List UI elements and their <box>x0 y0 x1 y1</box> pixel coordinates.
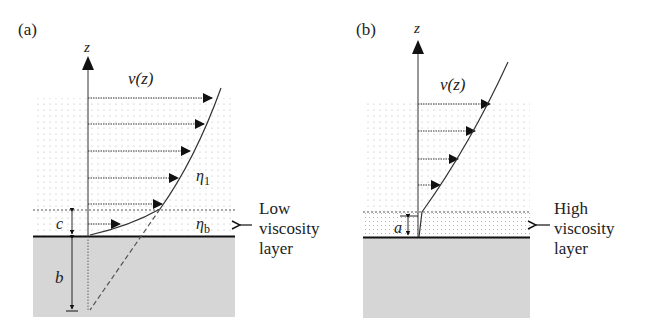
panel-b-label: (b) <box>356 20 376 39</box>
annotation-line-1: High <box>554 199 589 218</box>
z-axis-arrowhead-icon <box>82 56 94 70</box>
layer-thickness-label: a <box>394 219 402 236</box>
panel-b: (b) z v(z) a High viscosity layer <box>356 20 615 318</box>
high-viscosity-layer-region <box>363 212 530 236</box>
annotation-line-2: viscosity <box>554 219 615 238</box>
upper-fluid-region <box>363 100 530 212</box>
figure-canvas: (a) z v(z) η1 ηb c <box>0 0 658 327</box>
upper-fluid-region <box>33 98 235 210</box>
z-axis-label: z <box>413 20 420 36</box>
panel-a: (a) z v(z) η1 ηb c <box>18 20 320 317</box>
annotation-line-2: viscosity <box>259 219 320 238</box>
z-axis-label: z <box>83 39 90 55</box>
velocity-label: v(z) <box>440 75 466 94</box>
velocity-label: v(z) <box>128 69 154 88</box>
annotation-line-3: layer <box>554 239 588 258</box>
annotation-line-3: layer <box>259 239 293 258</box>
z-axis-arrowhead-icon <box>412 40 424 54</box>
layer-thickness-label: c <box>56 215 63 232</box>
annotation-line-1: Low <box>259 199 291 218</box>
panel-a-label: (a) <box>18 20 37 39</box>
solid-wall-region <box>363 238 530 318</box>
slip-length-label: b <box>55 268 64 287</box>
